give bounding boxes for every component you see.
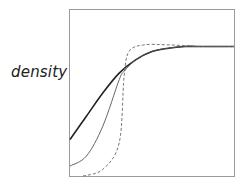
plot-frame xyxy=(70,10,235,177)
series-line-2 xyxy=(70,46,234,166)
series-layer xyxy=(70,44,234,176)
density-chart xyxy=(0,0,247,190)
series-line-1 xyxy=(70,46,234,139)
series-line-3 xyxy=(83,44,234,176)
